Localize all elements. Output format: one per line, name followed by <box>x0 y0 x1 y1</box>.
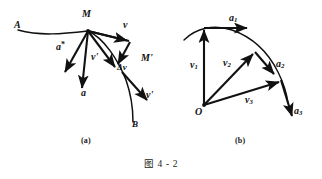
label-vector-v-prime-translated: v' <box>91 52 98 62</box>
label-point-a: A <box>14 20 21 30</box>
label-a-star-sup: * <box>61 40 65 49</box>
panel-b-group <box>184 27 292 116</box>
vector-a3 <box>281 80 292 116</box>
label-v2-sub: 2 <box>227 61 230 68</box>
label-vector-a2: a2 <box>276 59 284 70</box>
figure-caption: 图 4 - 2 <box>0 156 322 170</box>
label-vector-v: v <box>123 20 127 30</box>
label-a1-sub: 1 <box>234 16 237 23</box>
label-vector-v3: v3 <box>245 95 253 106</box>
label-vector-v-prime-curve: v' <box>146 90 153 100</box>
label-vector-v1: v1 <box>190 60 198 71</box>
panel-a-group <box>18 29 147 122</box>
label-point-b: B <box>132 120 138 129</box>
label-v3-sub: 3 <box>249 98 252 105</box>
label-vector-v2: v2 <box>223 58 231 69</box>
point-m-dot <box>86 29 90 33</box>
figure-drawing <box>0 0 322 179</box>
label-vector-delta-v: Δv <box>117 63 127 72</box>
panel-caption-a: (a) <box>81 136 91 145</box>
label-vector-a1: a1 <box>229 13 237 24</box>
origin-dot <box>202 103 206 107</box>
vector-delta-v <box>118 42 130 64</box>
vector-v-prime-at-mprime <box>122 72 147 100</box>
vector-a2 <box>255 52 274 74</box>
figure-page: A M v v' Δv a* a M' v' B O v1 v2 v3 a1 a… <box>0 0 322 179</box>
hodograph-curve <box>184 27 288 103</box>
label-a3-sub: 3 <box>299 109 302 116</box>
trajectory-curve-ab <box>18 30 133 122</box>
label-vector-a: a <box>81 88 86 98</box>
label-a2-sub: 2 <box>281 62 284 69</box>
label-v1-sub: 1 <box>194 63 197 70</box>
label-origin-o: O <box>195 107 202 117</box>
label-point-m-prime: M' <box>141 53 153 63</box>
label-point-m: M <box>82 9 91 19</box>
label-vector-a3: a3 <box>294 106 302 117</box>
label-vector-a-star: a* <box>56 41 65 52</box>
panel-caption-b: (b) <box>235 136 245 145</box>
